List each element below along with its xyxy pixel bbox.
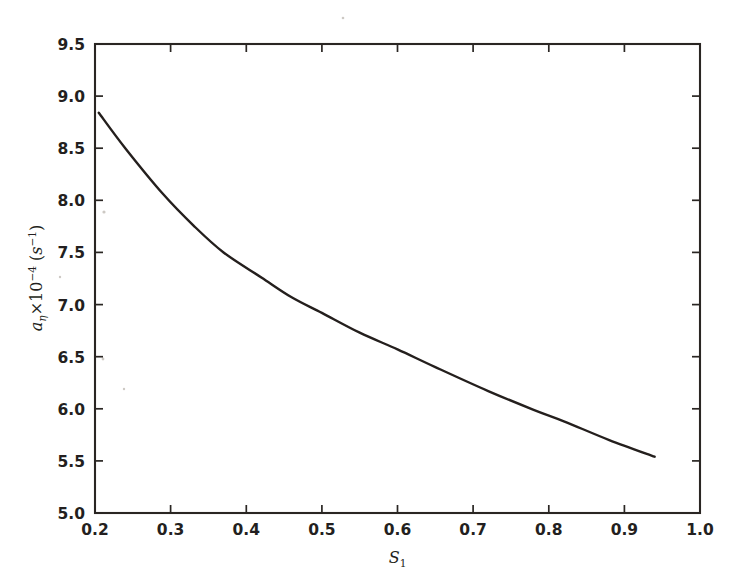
y-axis-title-exponent: −4 [26,266,38,282]
y-tick-label: 8.0 [58,192,86,210]
y-tick-label: 9.5 [58,36,85,54]
x-tick-labels: 0.2 0.3 0.4 0.5 0.6 0.7 0.8 0.9 1.0 [81,521,714,539]
y-tick-label: 8.5 [58,140,85,158]
y-tick-label: 6.0 [58,401,86,419]
figure-canvas: 0.2 0.3 0.4 0.5 0.6 0.7 0.8 0.9 1.0 5.0 … [0,0,746,581]
x-tick-label: 0.6 [384,521,411,539]
x-tick-label: 0.2 [81,521,108,539]
y-tick-label: 5.0 [58,505,86,523]
y-tick-label: 7.0 [58,297,86,315]
y-axis-title-units-open: ( [27,255,46,266]
y-tick-label: 5.5 [58,453,85,471]
x-tick-label: 0.9 [611,521,638,539]
x-tick-label: 0.4 [233,521,261,539]
x-axis-title-subscript: 1 [400,557,407,569]
y-tick-label: 6.5 [58,349,85,367]
x-tick-label: 0.7 [459,521,486,539]
y-axis-title-units-close: ) [27,225,46,231]
x-tick-label: 0.5 [308,521,335,539]
y-tick-label: 7.5 [58,244,85,262]
y-axis-title-base: a [27,322,46,332]
y-axis-title-units-var: s [27,247,46,255]
line-chart: 0.2 0.3 0.4 0.5 0.6 0.7 0.8 0.9 1.0 5.0 … [0,0,746,581]
chart-background [0,0,746,581]
y-axis-title-units-exponent: −1 [26,231,38,246]
x-tick-label: 0.3 [157,521,184,539]
x-axis-title-base: S [389,548,400,567]
y-axis-title-multiplier: ×10 [27,282,46,316]
y-tick-label: 9.0 [58,88,86,106]
x-tick-label: 1.0 [686,521,714,539]
x-tick-label: 0.8 [535,521,562,539]
